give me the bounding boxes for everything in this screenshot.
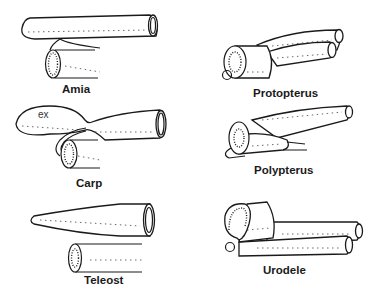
annotation-ex: ex <box>38 109 49 120</box>
protopterus-drawing <box>187 0 374 98</box>
figure: Amia Protopterus ex <box>0 0 374 294</box>
label-teleost: Teleost <box>84 274 123 286</box>
panel-teleost: Teleost <box>0 194 187 294</box>
label-amia: Amia <box>62 83 90 95</box>
panel-polypterus: Polypterus <box>187 98 374 194</box>
label-polypterus: Polypterus <box>254 164 313 176</box>
panel-carp: ex Carp <box>0 98 187 194</box>
urodele-drawing <box>187 194 374 294</box>
amia-drawing <box>0 0 187 98</box>
label-carp: Carp <box>76 177 102 189</box>
polypterus-drawing <box>187 98 374 194</box>
panel-protopterus: Protopterus <box>187 0 374 98</box>
panel-urodele: Urodele <box>187 194 374 294</box>
panel-amia: Amia <box>0 0 187 98</box>
label-urodele: Urodele <box>263 264 306 276</box>
